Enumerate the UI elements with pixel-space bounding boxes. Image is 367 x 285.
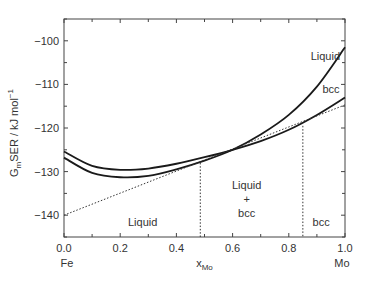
x-tick-label: 1.0 <box>337 242 352 254</box>
gibbs-energy-chart: 0.00.20.40.60.81.0−100−110−120−130−140 L… <box>0 0 367 285</box>
region-label: bcc <box>238 207 256 219</box>
annotations: LiquidbccLiquidLiquid+bccbcc <box>128 50 340 228</box>
curve-label: Liquid <box>311 50 340 62</box>
region-label: Liquid <box>232 179 261 191</box>
y-tick-label: −100 <box>34 35 59 47</box>
axis-ticks <box>64 19 345 237</box>
x-axis-left-element-label: Fe <box>61 257 74 269</box>
x-axis-title: xMo <box>196 257 213 272</box>
y-tick-label: −140 <box>34 209 59 221</box>
y-axis-title: GmSER / kJ mol−1 <box>6 88 23 176</box>
region-label: bcc <box>313 216 331 228</box>
y-tick-label: −120 <box>34 122 59 134</box>
x-tick-label: 0.8 <box>281 242 296 254</box>
plot-frame <box>64 19 345 237</box>
x-tick-label: 0.4 <box>169 242 184 254</box>
x-axis-right-element-label: Mo <box>334 257 349 269</box>
x-tick-label: 0.6 <box>225 242 240 254</box>
curve-label: bcc <box>322 83 340 95</box>
region-label: Liquid <box>128 216 157 228</box>
y-tick-label: −110 <box>35 78 59 90</box>
region-label: + <box>243 193 249 205</box>
x-tick-label: 0.0 <box>56 242 71 254</box>
x-tick-label: 0.2 <box>113 242 128 254</box>
plot-border <box>64 19 345 237</box>
y-tick-label: −130 <box>34 166 59 178</box>
axis-tick-labels: 0.00.20.40.60.81.0−100−110−120−130−140 <box>34 35 352 254</box>
data-series <box>64 47 345 215</box>
